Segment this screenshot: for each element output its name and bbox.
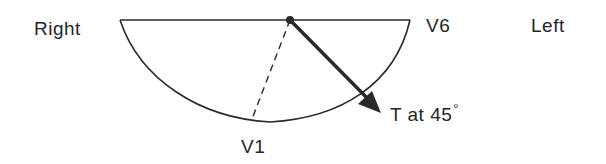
label-left: Left — [531, 16, 565, 35]
v1-axis-dashed-line — [252, 20, 290, 119]
t-vector-text: T at 45 — [390, 104, 452, 125]
ecg-vector-diagram — [0, 0, 606, 164]
label-v6: V6 — [426, 16, 450, 35]
t-vector-arrow-shaft — [290, 20, 372, 103]
label-v1: V1 — [241, 137, 265, 156]
label-right: Right — [34, 19, 81, 38]
label-t-at-45: T at 45° — [390, 105, 459, 124]
origin-dot — [286, 16, 294, 24]
degree-symbol: ° — [453, 101, 459, 116]
